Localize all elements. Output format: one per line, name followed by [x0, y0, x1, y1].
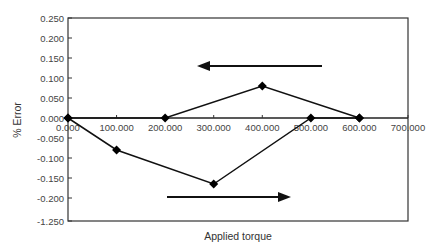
diamond-marker — [112, 146, 121, 155]
y-axis-title: % Error — [11, 102, 23, 138]
arrow-increasing-icon — [167, 192, 291, 202]
diamond-marker — [258, 82, 267, 91]
y-tick-label: -0.100 — [37, 153, 64, 164]
y-tick-label: -0.200 — [37, 193, 64, 204]
y-tick-label: 0.100 — [40, 73, 64, 84]
x-tick-label: 300.000 — [197, 122, 231, 133]
y-tick-label: 0.150 — [40, 53, 64, 64]
y-tick-label: -0.050 — [37, 133, 64, 144]
arrow-decreasing-icon — [197, 61, 322, 71]
series-lines — [68, 86, 359, 184]
y-tick-label: -0.150 — [37, 173, 64, 184]
x-axis-title: Applied torque — [204, 230, 272, 242]
x-tick-label: 500.000 — [294, 122, 328, 133]
x-tick-label: 200.000 — [148, 122, 182, 133]
x-tick-label: 100.000 — [99, 122, 133, 133]
y-tick-label: 0.050 — [40, 93, 64, 104]
y-tick-label: 0.200 — [40, 33, 64, 44]
x-tick-label: 400.000 — [245, 122, 279, 133]
error-vs-torque-chart: 0.2500.2000.1500.1000.0500.000-0.050-0.1… — [0, 0, 433, 249]
series-line — [68, 86, 359, 118]
data-markers — [64, 82, 364, 189]
x-tick-label: 700.000 — [391, 122, 425, 133]
y-tick-label: 0.250 — [40, 13, 64, 24]
y-tick-label: -1.250 — [37, 216, 64, 227]
diamond-marker — [209, 180, 218, 189]
x-tick-label: 600.000 — [342, 122, 376, 133]
